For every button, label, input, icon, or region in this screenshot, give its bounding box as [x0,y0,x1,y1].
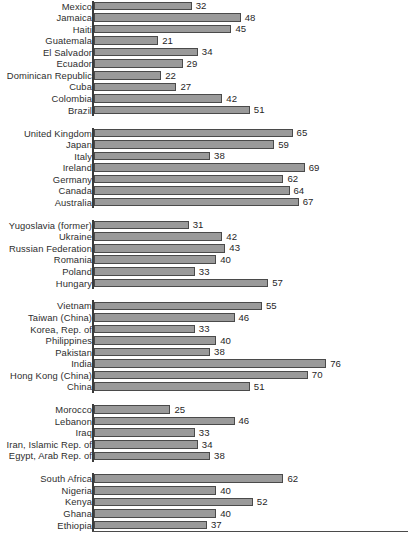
bar [94,71,161,80]
bar-row: Russian Federation43 [0,243,408,255]
value-label: 48 [242,12,258,23]
bar [94,440,198,449]
bar [94,221,189,230]
bar-group: Morocco25Lebanon46Iraq33Iran, Islamic Re… [0,404,408,462]
bar-row: Hong Kong (China)70 [0,370,408,382]
bar-row: China51 [0,381,408,393]
bar-row: Korea, Rep. of33 [0,324,408,336]
bar [94,325,195,334]
value-label: 21 [159,35,175,46]
bar-row: Poland33 [0,266,408,278]
value-label: 31 [190,219,206,230]
bar-row: Dominican Republic22 [0,70,408,82]
bar [94,186,290,195]
category-label: China [67,381,92,393]
category-label: Colombia [52,93,92,105]
bar [94,313,235,322]
value-label: 29 [184,58,200,69]
bar-row: Egypt, Arab Rep. of38 [0,450,408,462]
bar-row: Colombia42 [0,93,408,105]
bar [94,25,231,34]
value-label: 46 [236,312,252,323]
value-label: 38 [211,150,227,161]
horizontal-bar-chart: Mexico32Jamaica48Haiti45Guatemala21El Sa… [0,0,408,533]
bar [94,2,192,11]
bar-row: Ireland69 [0,162,408,174]
value-label: 42 [223,93,239,104]
category-label: Korea, Rep. of [30,324,92,336]
value-label: 76 [327,358,343,369]
bar [94,13,241,22]
category-label: United Kingdom [24,128,92,140]
bar-row: Ukraine42 [0,231,408,243]
bar-row: Taiwan (China)46 [0,312,408,324]
bar [94,428,195,437]
bar-row: United Kingdom65 [0,128,408,140]
category-label: Ukraine [59,231,92,243]
bar-row: Cuba27 [0,81,408,93]
bar-row: India76 [0,358,408,370]
category-label: South Africa [40,473,92,485]
bar [94,279,268,288]
bar [94,336,216,345]
value-label: 52 [254,496,270,507]
bar-group: Mexico32Jamaica48Haiti45Guatemala21El Sa… [0,1,408,117]
category-label: Ecuador [56,58,92,70]
category-label: Japan [66,139,92,151]
value-label: 27 [177,81,193,92]
value-label: 51 [251,104,267,115]
category-label: Brazil [68,105,92,117]
category-label: Germany [53,174,92,186]
bar [94,509,216,518]
category-label: Iraq [75,427,92,439]
value-label: 34 [199,46,215,57]
category-label: Haiti [73,24,92,36]
bar [94,302,262,311]
category-label: Vietnam [57,300,92,312]
value-label: 62 [284,173,300,184]
value-label: 70 [309,369,325,380]
bar [94,94,222,103]
bar-row: Philippines40 [0,335,408,347]
bar [94,106,250,115]
category-label: Taiwan (China) [28,312,92,324]
category-label: Nigeria [62,485,92,497]
category-label: Egypt, Arab Rep. of [9,450,92,462]
category-label: Hungary [56,278,92,290]
bar-row: Ecuador29 [0,58,408,70]
bar [94,486,216,495]
value-label: 33 [196,427,212,438]
category-label: Iran, Islamic Rep. of [7,439,92,451]
bar [94,48,198,57]
value-label: 69 [306,162,322,173]
bar [94,498,253,507]
bar [94,59,183,68]
value-label: 51 [251,381,267,392]
bar-row: South Africa62 [0,473,408,485]
value-label: 38 [211,346,227,357]
category-label: Ethiopia [57,520,92,532]
bar [94,348,210,357]
category-label: Pakistan [55,347,92,359]
bar-row: Brazil51 [0,105,408,117]
category-label: El Salvador [43,47,92,59]
bar-row: Morocco25 [0,404,408,416]
value-label: 65 [294,127,310,138]
bar-row: Japan59 [0,139,408,151]
bar-row: Yugoslavia (former)31 [0,220,408,232]
bar-row: Ethiopia37 [0,520,408,532]
bar-row: Kenya52 [0,496,408,508]
category-label: Mexico [62,1,92,13]
bar-row: Hungary57 [0,278,408,290]
bar-row: Germany62 [0,174,408,186]
value-label: 45 [232,23,248,34]
value-label: 43 [226,242,242,253]
category-label: Lebanon [55,416,92,428]
bar [94,417,235,426]
value-label: 40 [217,485,233,496]
category-label: Poland [62,266,92,278]
bar-row: Lebanon46 [0,416,408,428]
bar [94,140,274,149]
chart-baseline [92,531,408,532]
bar [94,255,216,264]
